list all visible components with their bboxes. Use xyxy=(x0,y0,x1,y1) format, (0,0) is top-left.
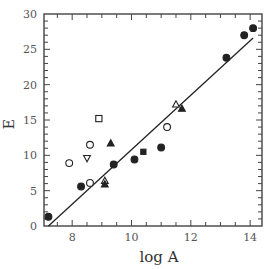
y-tick-label: 15 xyxy=(23,114,37,127)
filled-circle-marker xyxy=(110,161,117,168)
filled-circle-marker xyxy=(241,32,248,39)
open-circle-marker xyxy=(87,141,94,148)
plot-border xyxy=(44,14,262,226)
open-circle-marker xyxy=(164,124,171,131)
regression-line xyxy=(48,38,253,226)
y-tick-label: 5 xyxy=(30,185,37,198)
y-tick-label: 20 xyxy=(23,79,37,92)
axis-ticks: 8101214051015202530 xyxy=(23,8,262,244)
filled-circle-marker xyxy=(158,144,165,151)
y-tick-label: 10 xyxy=(23,149,37,162)
filled-circle-marker xyxy=(223,54,230,61)
filled-up-triangle-marker xyxy=(107,140,114,146)
filled-circle-marker xyxy=(250,25,257,32)
x-tick-label: 14 xyxy=(243,231,257,244)
x-tick-label: 10 xyxy=(124,231,138,244)
open-square-marker xyxy=(96,115,102,121)
x-tick-label: 8 xyxy=(69,231,76,244)
filled-circle-marker xyxy=(131,156,138,163)
y-tick-label: 25 xyxy=(23,43,37,56)
x-axis-label: log A xyxy=(139,248,178,266)
y-tick-label: 0 xyxy=(30,220,37,233)
open-circle-marker xyxy=(87,179,94,186)
open-up-triangle-marker xyxy=(173,101,180,107)
filled-circle-marker xyxy=(78,183,85,190)
chart-canvas: 8101214051015202530 log A E xyxy=(0,0,272,269)
fit-line xyxy=(48,38,253,226)
open-circle-marker xyxy=(66,160,73,167)
y-tick-label: 30 xyxy=(23,8,37,21)
axes-frame xyxy=(44,14,262,226)
scatter-chart: 8101214051015202530 log A E xyxy=(0,0,272,269)
data-points xyxy=(45,25,256,220)
open-down-triangle-marker xyxy=(84,156,91,162)
filled-square-marker xyxy=(141,149,146,154)
filled-circle-marker xyxy=(45,213,52,220)
x-tick-label: 12 xyxy=(184,231,198,244)
y-axis-label: E xyxy=(1,119,17,129)
